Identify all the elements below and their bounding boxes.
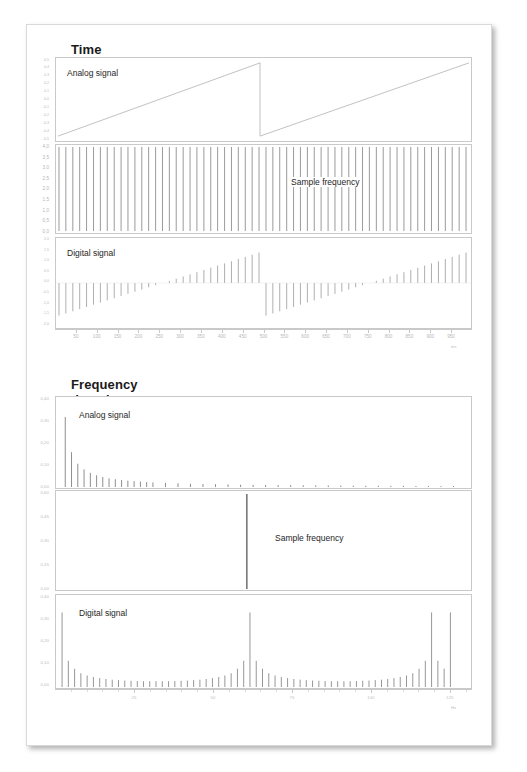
xaxis-tick-label: 125 bbox=[436, 696, 464, 700]
time-sample-frequency-label: Sample frequency bbox=[289, 177, 362, 187]
freq-sample-frequency-plot bbox=[56, 491, 471, 590]
time-xaxis-unit: ms bbox=[451, 344, 457, 349]
xaxis-tick-label: 950 bbox=[437, 335, 465, 340]
freq-sample-frequency-panel bbox=[55, 490, 472, 591]
time-digital-signal-plot bbox=[56, 238, 471, 328]
freq-xaxis-unit: Hz bbox=[451, 705, 456, 710]
time-sample-frequency-panel bbox=[55, 144, 472, 234]
freq-analog-signal-label: Analog signal bbox=[79, 410, 130, 420]
time-digital-signal-panel bbox=[55, 237, 472, 329]
freq-sample-frequency-label: Sample frequency bbox=[275, 533, 344, 543]
xaxis-tick-label: 25 bbox=[120, 696, 148, 700]
time-analog-signal-plot bbox=[56, 58, 471, 141]
time-digital-signal-label: Digital signal bbox=[67, 248, 115, 258]
time-analog-signal-label: Analog signal bbox=[67, 68, 118, 78]
time-sample-frequency-plot bbox=[56, 145, 471, 233]
freq-digital-signal-label: Digital signal bbox=[79, 608, 127, 618]
xaxis-tick-label: 100 bbox=[357, 696, 385, 700]
document-page: Time domain 0,5 0,4 0,3 0,2 0,1 0,0 -0,1… bbox=[26, 24, 492, 746]
time-xaxis-tickmarks bbox=[55, 330, 472, 333]
xaxis-tick-label: 75 bbox=[278, 696, 306, 700]
xaxis-tick-label: 50 bbox=[199, 696, 227, 700]
freq-xaxis-tickmarks bbox=[55, 690, 472, 694]
